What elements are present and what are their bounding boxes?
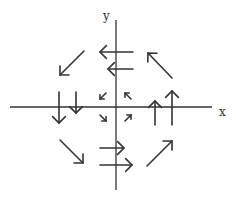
arrow-up-far-icon <box>166 91 179 125</box>
arrow-northwest-icon <box>148 53 172 78</box>
arrow-small-southeast-icon <box>100 115 106 121</box>
arrow-northeast-icon <box>147 141 172 166</box>
arrow-left-mid-icon <box>108 63 133 76</box>
x-axis-label: x <box>219 105 226 119</box>
arrow-down-near-icon <box>70 92 83 113</box>
arrow-southeast-icon <box>60 140 83 163</box>
y-axis-label: y <box>102 9 110 23</box>
arrow-southwest-icon <box>60 51 84 75</box>
arrow-up-near-icon <box>149 101 162 125</box>
arrow-small-northeast-icon <box>125 115 131 121</box>
arrow-small-northwest-icon <box>125 93 131 99</box>
arrow-small-southwest-icon <box>100 93 106 99</box>
arrow-right-mid-icon <box>100 142 124 155</box>
vector-field-diagram: y x <box>0 0 236 200</box>
